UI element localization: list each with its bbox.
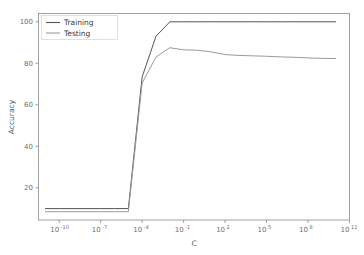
x-tick-label: 10-7 <box>92 224 107 235</box>
x-axis-ticks: 10-1010-710-410-11021051081011 <box>50 220 357 234</box>
x-tick-label: 10-1 <box>175 224 190 235</box>
legend-label-testing: Testing <box>63 29 91 38</box>
svg-text:8: 8 <box>310 224 313 230</box>
svg-text:11: 11 <box>351 224 357 230</box>
svg-text:-10: -10 <box>61 224 69 230</box>
svg-text:10: 10 <box>92 226 101 234</box>
svg-text:10: 10 <box>258 226 267 234</box>
svg-text:-1: -1 <box>185 224 190 230</box>
svg-text:10: 10 <box>133 226 142 234</box>
svg-text:10: 10 <box>175 226 184 234</box>
x-tick-label: 108 <box>299 224 313 235</box>
y-tick-label: 40 <box>24 143 33 151</box>
x-tick-label: 102 <box>216 224 230 235</box>
svg-text:-7: -7 <box>102 224 107 230</box>
y-axis-title: Accuracy <box>7 99 16 134</box>
x-tick-label: 1011 <box>341 224 358 235</box>
x-tick-label: 10-10 <box>50 224 69 235</box>
svg-text:-4: -4 <box>144 224 149 230</box>
y-tick-label: 80 <box>24 60 33 68</box>
y-axis-ticks: 20406080100 <box>20 18 39 192</box>
accuracy-vs-c-line-chart: 20406080100 10-1010-710-410-110210510810… <box>0 0 364 255</box>
svg-text:10: 10 <box>299 226 308 234</box>
svg-text:2: 2 <box>227 224 230 230</box>
x-tick-label: 10-4 <box>133 224 148 235</box>
svg-text:5: 5 <box>268 224 271 230</box>
plot-spines <box>39 14 350 221</box>
svg-text:10: 10 <box>341 226 350 234</box>
data-series-group <box>45 22 335 212</box>
series-line-testing <box>45 48 335 212</box>
x-tick-label: 105 <box>258 224 272 235</box>
figure-canvas: 20406080100 10-1010-710-410-110210510810… <box>0 0 364 255</box>
y-tick-label: 100 <box>20 18 33 26</box>
chart-legend[interactable]: Training Testing <box>42 16 118 40</box>
y-tick-label: 20 <box>24 184 33 192</box>
x-axis-title: C <box>191 239 196 248</box>
plot-frame <box>39 14 350 221</box>
legend-label-training: Training <box>63 18 94 27</box>
svg-text:10: 10 <box>50 226 59 234</box>
svg-text:10: 10 <box>216 226 225 234</box>
y-tick-label: 60 <box>24 101 33 109</box>
